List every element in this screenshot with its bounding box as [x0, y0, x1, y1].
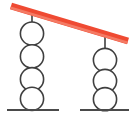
stack-circle — [93, 48, 116, 71]
stack-circle — [20, 45, 43, 68]
left-circle-stack — [20, 22, 43, 110]
right-circle-stack — [93, 48, 116, 110]
balance-diagram — [0, 0, 133, 118]
stack-circle — [20, 22, 43, 45]
diagram-canvas — [0, 0, 133, 118]
stack-circle — [93, 88, 116, 111]
stack-circle — [20, 87, 43, 110]
